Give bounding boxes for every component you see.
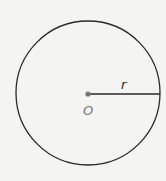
center-label: O <box>83 103 93 118</box>
radius-label: r <box>121 77 128 92</box>
center-point <box>85 91 90 96</box>
circle-diagram: r O <box>0 0 166 181</box>
